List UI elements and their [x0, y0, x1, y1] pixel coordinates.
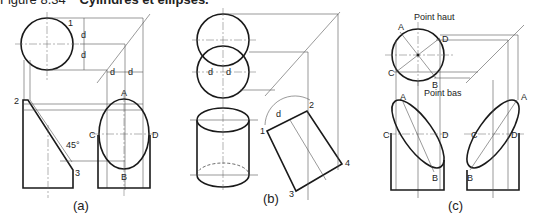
label-D2: D	[442, 130, 449, 140]
label-B2: B	[432, 173, 438, 183]
label-3: 3	[75, 168, 80, 178]
dim-d-3: d	[110, 67, 115, 77]
point-haut-label: Point haut	[414, 12, 455, 22]
label-C3: C	[471, 130, 478, 140]
label-A: A	[121, 88, 127, 98]
label-A: A	[398, 22, 404, 32]
label-2: 2	[14, 96, 19, 106]
label-3: 3	[289, 189, 294, 199]
label-A3: A	[521, 92, 527, 102]
label-D3: D	[511, 130, 518, 140]
label-1: 1	[260, 126, 265, 136]
label-D: D	[442, 34, 449, 44]
cylinders-ellipses-diagram: d d d d 1 2 3 45° A B C D (a)	[0, 0, 534, 222]
label-4: 4	[345, 158, 350, 168]
label-D: D	[152, 130, 159, 140]
label-B: B	[121, 172, 127, 182]
panel-a: d d d d 1 2 3 45° A B C D (a)	[14, 12, 159, 213]
angle-label: 45°	[66, 140, 80, 150]
label-B3: B	[467, 173, 473, 183]
label-C2: C	[383, 130, 390, 140]
dim-d-4: d	[128, 67, 133, 77]
dim-d-1: d	[81, 30, 86, 40]
tilted-cylinder-view	[267, 111, 342, 191]
label-1: 1	[68, 18, 73, 28]
label-A2: A	[400, 92, 406, 102]
label-C: C	[388, 68, 395, 78]
caption-b: (b)	[263, 191, 279, 206]
label-C: C	[89, 130, 96, 140]
point-bas-label: Point bas	[424, 88, 462, 98]
dim-d-2: d	[81, 50, 86, 60]
dim-d-2: d	[226, 67, 231, 77]
dim-d-3: d	[276, 109, 281, 119]
panel-c: A D C B Point haut Point bas A B C D A B…	[383, 12, 528, 213]
caption-a: (a)	[73, 198, 89, 213]
panel-b: d d d 1 2 3 4 (b)	[190, 8, 350, 206]
caption-c: (c)	[448, 198, 463, 213]
dim-d-1: d	[208, 67, 213, 77]
label-2: 2	[309, 100, 314, 110]
